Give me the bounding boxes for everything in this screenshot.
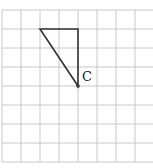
point-c-label: C: [82, 69, 92, 84]
grid-diagram: C: [0, 0, 153, 168]
point-c-marker: [76, 84, 80, 88]
